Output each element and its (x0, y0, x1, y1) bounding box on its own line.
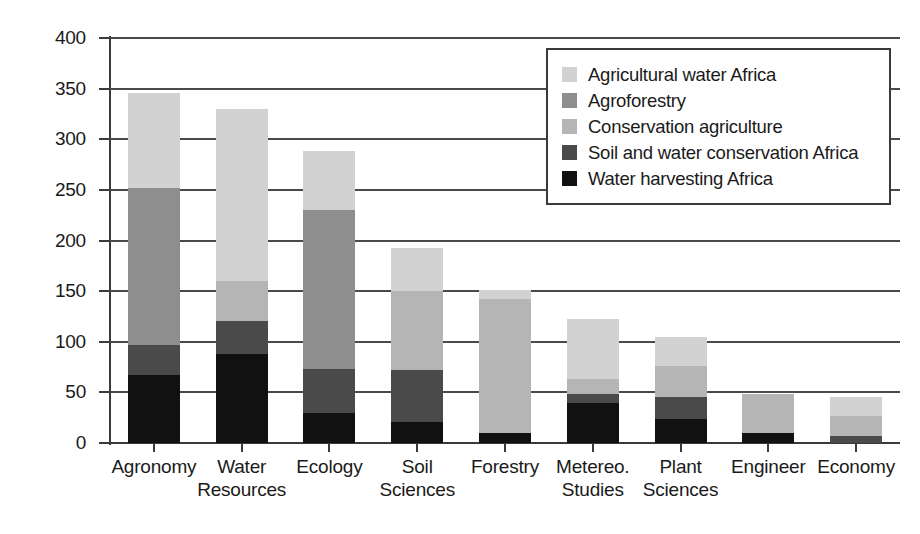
bar-segment (479, 433, 531, 443)
bar-economy (830, 397, 882, 443)
y-tick-label: 400 (0, 28, 86, 47)
y-tick-label: 350 (0, 79, 86, 98)
bar-segment (655, 419, 707, 443)
bar-segment (216, 109, 268, 281)
bar-segment (567, 379, 619, 394)
bar-segment (128, 375, 180, 443)
x-axis-label-line1: Water (217, 456, 266, 477)
x-axis-label-line1: Engineer (731, 456, 805, 477)
bar-soil-sciences (391, 248, 443, 443)
x-axis-label-line2: Sciences (358, 478, 476, 501)
gridline (110, 37, 900, 39)
bar-segment (830, 436, 882, 443)
x-axis-label-line1: Plant (659, 456, 701, 477)
y-tick-label: 150 (0, 281, 86, 300)
legend-label: Agricultural water Africa (588, 65, 776, 84)
y-tick-mark (99, 88, 110, 90)
bar-segment (303, 413, 355, 443)
bar-segment (830, 397, 882, 415)
bar-segment (655, 397, 707, 418)
bar-segment (567, 403, 619, 444)
y-tick-mark (99, 290, 110, 292)
x-axis-label-line1: Economy (817, 456, 895, 477)
bar-segment (655, 366, 707, 397)
y-tick-label: 100 (0, 332, 86, 351)
bar-segment (391, 370, 443, 422)
x-tick-mark (416, 443, 418, 452)
x-tick-mark (504, 443, 506, 452)
bar-segment (742, 433, 794, 443)
bar-segment (742, 394, 794, 432)
y-tick-mark (99, 391, 110, 393)
bar-segment (479, 299, 531, 433)
bar-segment (391, 248, 443, 292)
x-axis-label-line1: Soil (402, 456, 433, 477)
legend-swatch-icon (562, 93, 577, 108)
bar-segment (128, 188, 180, 345)
y-tick-mark (99, 138, 110, 140)
bar-ecology (303, 151, 355, 443)
x-tick-mark (767, 443, 769, 452)
bar-segment (303, 210, 355, 369)
bar-segment (216, 321, 268, 354)
y-tick-mark (99, 189, 110, 191)
y-tick-label: 200 (0, 231, 86, 250)
y-tick-mark (99, 240, 110, 242)
y-tick-label: 50 (0, 382, 86, 401)
x-tick-mark (328, 443, 330, 452)
x-tick-mark (855, 443, 857, 452)
bar-engineer (742, 394, 794, 443)
bar-segment (216, 354, 268, 443)
bar-water-resources (216, 109, 268, 443)
bar-segment (479, 290, 531, 299)
bar-segment (128, 93, 180, 188)
bar-forestry (479, 290, 531, 443)
x-tick-mark (680, 443, 682, 452)
x-tick-mark (241, 443, 243, 452)
stacked-bar-chart: 400350300250200150100500 AgronomyWaterRe… (0, 0, 920, 534)
legend-label: Agroforestry (588, 91, 686, 110)
legend-label: Soil and water conservation Africa (588, 143, 858, 162)
x-axis-label-line1: Ecology (296, 456, 362, 477)
legend-item: Conservation agriculture (562, 113, 879, 139)
y-tick-mark (99, 37, 110, 39)
x-axis-label-line1: Metereo. (556, 456, 629, 477)
y-tick-label: 300 (0, 129, 86, 148)
legend-swatch-icon (562, 119, 577, 134)
x-tick-mark (153, 443, 155, 452)
legend-swatch-icon (562, 67, 577, 82)
bar-segment (303, 369, 355, 413)
y-tick-mark (99, 341, 110, 343)
bar-segment (567, 394, 619, 402)
legend-item: Agricultural water Africa (562, 61, 879, 87)
legend-label: Conservation agriculture (588, 117, 783, 136)
legend-item: Soil and water conservation Africa (562, 139, 879, 165)
bar-segment (391, 422, 443, 443)
bar-segment (128, 345, 180, 375)
legend-item: Water harvesting Africa (562, 165, 879, 191)
y-tick-label: 0 (0, 433, 86, 452)
bar-segment (216, 281, 268, 320)
legend-swatch-icon (562, 145, 577, 160)
x-tick-mark (592, 443, 594, 452)
legend-swatch-icon (562, 171, 577, 186)
y-tick-label: 250 (0, 180, 86, 199)
bar-segment (567, 319, 619, 379)
bar-plant-sciences (655, 337, 707, 443)
x-axis-label-line1: Forestry (471, 456, 539, 477)
bar-segment (303, 151, 355, 210)
x-axis-label-line2: Resources (183, 478, 301, 501)
bar-agronomy (128, 93, 180, 443)
x-axis-label: Economy (797, 455, 915, 478)
y-tick-mark (99, 442, 110, 444)
legend-label: Water harvesting Africa (588, 169, 773, 188)
legend-item: Agroforestry (562, 87, 879, 113)
bar-segment (655, 337, 707, 366)
bar-segment (391, 291, 443, 370)
chart-legend: Agricultural water AfricaAgroforestryCon… (546, 48, 891, 205)
bar-segment (830, 416, 882, 436)
bar-metereo-studies (567, 319, 619, 443)
x-axis-label-line2: Sciences (622, 478, 740, 501)
